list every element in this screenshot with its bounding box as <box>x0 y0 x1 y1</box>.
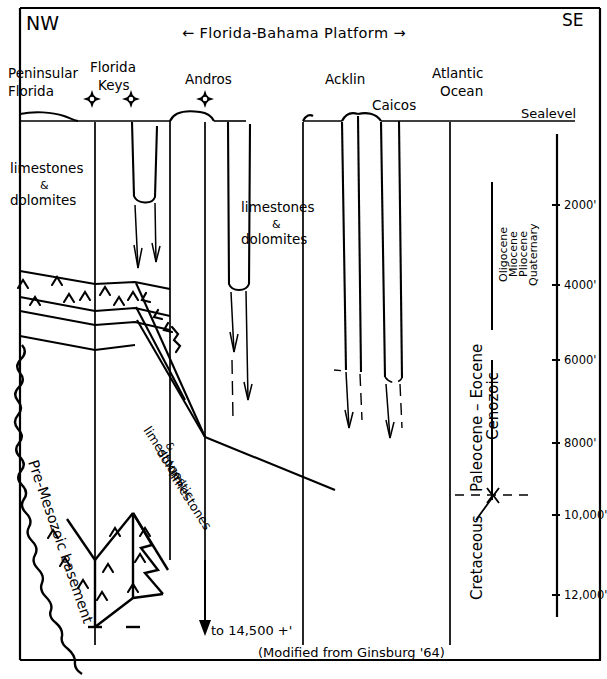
label-atlantic-ocean-line2: Ocean <box>440 83 483 99</box>
unit-florida-dolomites: dolomites <box>10 192 76 208</box>
unit-bahama-amp: & <box>272 218 281 231</box>
label-acklin: Acklin <box>325 71 365 87</box>
unit-florida-limestones: limestones <box>10 160 83 176</box>
label-florida-keys-line2: Keys <box>98 77 130 93</box>
epoch-quaternary: Quaternary <box>527 223 540 286</box>
label-peninsular-florida-line2: Florida <box>8 83 54 99</box>
era-cenozoic: Cenozoic <box>484 372 502 440</box>
depth-tick-4000: 4000' <box>564 278 596 292</box>
source-credit: (Modified from Ginsburg '64) <box>258 645 445 660</box>
depth-tick-8000: 8000' <box>564 436 596 450</box>
label-atlantic-ocean-line1: Atlantic <box>432 65 483 81</box>
depth-tick-2000: 2000' <box>564 198 596 212</box>
unit-bahama-dolomites: dolomites <box>241 231 307 247</box>
label-andros: Andros <box>185 71 232 87</box>
cross-section-figure: NW SE ← Florida-Bahama Platform → Penins… <box>0 0 607 679</box>
deep-extent-label: to 14,500 +' <box>211 623 292 638</box>
unit-florida-amp: & <box>40 179 49 192</box>
geologic-cross-section-svg: NW SE ← Florida-Bahama Platform → Penins… <box>0 0 607 679</box>
platform-title: ← Florida-Bahama Platform → <box>182 25 406 41</box>
depth-tick-10000: 10,000' <box>564 508 607 522</box>
orientation-nw-label: NW <box>26 12 59 34</box>
sealevel-label: Sealevel <box>521 106 576 121</box>
series-paleocene-eocene: Paleocene – Eocene <box>468 344 486 492</box>
depth-tick-6000: 6000' <box>564 353 596 367</box>
orientation-se-label: SE <box>562 10 584 30</box>
label-caicos: Caicos <box>372 97 416 113</box>
system-cretaceous: Cretaceous <box>468 515 486 600</box>
label-peninsular-florida-line1: Peninsular <box>8 65 78 81</box>
label-florida-keys-line1: Florida <box>90 59 136 75</box>
depth-tick-12000: 12,000' <box>564 588 607 602</box>
epoch-labels: Oligocene Miocene Pliocene Quaternary <box>497 223 540 286</box>
unit-bahama-limestones: limestones <box>241 199 314 215</box>
